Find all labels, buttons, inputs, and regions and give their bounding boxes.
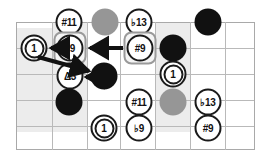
marker-label: 1: [163, 64, 183, 84]
marker-label: #9: [135, 43, 146, 54]
grid-line-v-7: [254, 22, 255, 150]
marker-flat13-lower[interactable]: ♭13: [195, 89, 222, 116]
marker-label: #11: [131, 97, 146, 108]
marker-label: #11: [61, 17, 76, 28]
marker-label: ♭9: [65, 43, 75, 54]
marker-gray-dot-lower[interactable]: [160, 89, 187, 116]
marker-sharp9-boxed[interactable]: #9: [127, 35, 154, 62]
marker-black-dot-row3[interactable]: [91, 63, 118, 90]
marker-label: #9: [203, 123, 214, 134]
marker-root-middle[interactable]: 1: [160, 61, 187, 88]
marker-gray-dot-top[interactable]: [92, 9, 119, 36]
marker-label: ♭13: [200, 97, 215, 108]
marker-label: ♭9: [134, 123, 144, 134]
marker-root-left[interactable]: 1: [21, 35, 48, 62]
marker-delta3[interactable]: Δ3: [57, 63, 84, 90]
marker-root-bottom[interactable]: 1: [91, 115, 118, 142]
marker-sharp9-bottom[interactable]: #9: [195, 115, 222, 142]
marker-label: ♭13: [131, 17, 146, 28]
diagram-canvas: #11 ♭13 1 ♭9 #9 Δ3 1 #11 ♭13 1 ♭9 #9: [0, 0, 268, 167]
grid-line-v-0: [16, 22, 17, 150]
marker-flat9-boxed[interactable]: ♭9: [57, 35, 84, 62]
grid-line-v-2: [87, 22, 88, 150]
grid-line-v-5: [190, 22, 191, 150]
marker-black-dot-row4[interactable]: [56, 89, 83, 116]
marker-black-dot-row2[interactable]: [160, 35, 187, 62]
marker-label: 1: [24, 38, 44, 58]
marker-sharp11-lower[interactable]: #11: [126, 89, 153, 116]
marker-flat9-bottom[interactable]: ♭9: [126, 115, 153, 142]
marker-black-dot-top[interactable]: [195, 9, 222, 36]
grid-line-v-6: [225, 22, 226, 150]
marker-label: 1: [94, 118, 114, 138]
grid-line-v-3: [120, 22, 121, 150]
marker-label: Δ3: [64, 71, 76, 82]
